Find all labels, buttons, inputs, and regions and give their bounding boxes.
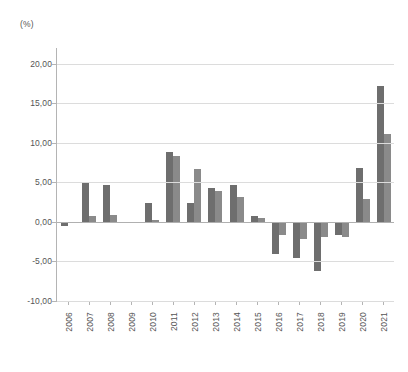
- x-axis-tick-label: 2018: [316, 312, 326, 332]
- y-axis-tickmark: [52, 64, 57, 65]
- x-axis-tick-label: 2013: [211, 312, 221, 332]
- x-axis-tick-label: 2008: [106, 312, 116, 332]
- gridline: [57, 103, 394, 104]
- x-axis-tick-label: 2017: [295, 312, 305, 332]
- x-axis-tick-label: 2012: [190, 312, 200, 332]
- y-axis-tickmark: [52, 222, 57, 223]
- bar-2013-series-2: [215, 191, 222, 222]
- bar-2011-series-1: [166, 152, 173, 222]
- bar-2017-series-1: [293, 222, 300, 258]
- bar-2007-series-1: [82, 182, 89, 222]
- gridline: [57, 301, 394, 302]
- y-axis-ticks: 20,0015,0010,005,000,00-5,00-10,00: [12, 48, 52, 301]
- bar-2013-series-1: [208, 188, 215, 222]
- x-axis-tick-label: 2006: [64, 312, 74, 332]
- y-axis-tickmark: [52, 143, 57, 144]
- bar-2008-series-1: [103, 185, 110, 222]
- x-axis-tick-label: 2009: [127, 312, 137, 332]
- gridline: [57, 222, 394, 223]
- x-axis-tick-label: 2010: [148, 312, 158, 332]
- bar-2020-series-1: [356, 168, 363, 222]
- y-axis-tick-label: 5,00: [16, 177, 52, 187]
- bar-2021-series-1: [377, 86, 384, 222]
- bar-chart: (%) 20,0015,0010,005,000,00-5,00-10,00 2…: [0, 0, 408, 372]
- y-axis-tick-label: -10,00: [16, 296, 52, 306]
- y-axis-unit-label: (%): [20, 19, 34, 29]
- bar-2010-series-1: [145, 203, 152, 222]
- bar-2017-series-2: [300, 222, 307, 239]
- bar-2014-series-1: [230, 185, 237, 222]
- y-axis-tickmark: [52, 103, 57, 104]
- bar-2021-series-2: [384, 134, 391, 222]
- y-axis-tickmark: [52, 261, 57, 262]
- y-axis-tick-label: 15,00: [16, 98, 52, 108]
- x-axis-tick-label: 2021: [379, 312, 389, 332]
- x-axis-tick-label: 2007: [85, 312, 95, 332]
- bar-2016-series-1: [272, 222, 279, 254]
- x-axis-tick-label: 2020: [358, 312, 368, 332]
- bar-2018-series-1: [314, 222, 321, 271]
- y-axis-tick-label: -5,00: [16, 256, 52, 266]
- x-axis-tick-label: 2014: [232, 312, 242, 332]
- x-axis-tick-label: 2011: [169, 312, 179, 331]
- bar-2018-series-2: [321, 222, 328, 237]
- bar-2008-series-2: [110, 215, 117, 222]
- y-axis-tick-label: 20,00: [16, 59, 52, 69]
- bar-2014-series-2: [237, 197, 244, 222]
- gridline: [57, 182, 394, 183]
- y-axis-tickmark: [52, 182, 57, 183]
- bar-2012-series-2: [194, 169, 201, 222]
- bar-2019-series-1: [335, 222, 342, 235]
- bar-2016-series-2: [279, 222, 286, 235]
- x-axis-tick-label: 2019: [337, 312, 347, 332]
- bars-layer: [57, 48, 394, 301]
- y-axis-tick-label: 10,00: [16, 138, 52, 148]
- bar-2011-series-2: [173, 156, 180, 222]
- y-axis-tick-label: 0,00: [16, 217, 52, 227]
- bar-2019-series-2: [342, 222, 349, 237]
- bar-2012-series-1: [187, 203, 194, 222]
- y-axis-tickmark: [52, 301, 57, 302]
- gridline: [57, 261, 394, 262]
- gridline: [57, 143, 394, 144]
- x-axis-tick-label: 2016: [274, 312, 284, 332]
- x-axis-tick-label: 2015: [253, 312, 263, 332]
- bar-2020-series-2: [363, 199, 370, 222]
- gridline: [57, 64, 394, 65]
